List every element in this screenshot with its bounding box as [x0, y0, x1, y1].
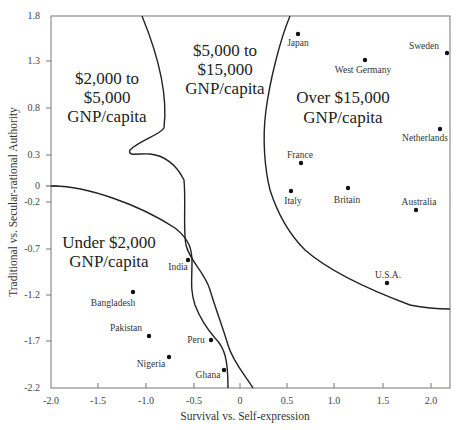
y-tick-label: 1.3: [28, 55, 41, 66]
region-label: $5,000 to: [193, 41, 257, 60]
y-axis-label: Traditional vs. Secular-rational Authori…: [7, 107, 20, 297]
region-label: GNP/capita: [303, 108, 383, 127]
label-ghana: Ghana: [196, 370, 222, 380]
region-label: GNP/capita: [67, 107, 147, 126]
x-tick-label: 0.5: [281, 395, 294, 406]
label-pakistan: Pakistan: [110, 323, 142, 333]
x-tick-label: -2.0: [43, 395, 59, 406]
x-tick-label: 1.0: [328, 395, 341, 406]
label-nigeria: Nigeria: [137, 359, 166, 369]
region-label: GNP/capita: [69, 252, 149, 271]
point-nigeria: [167, 355, 171, 359]
point-peru: [209, 338, 213, 342]
region-label: GNP/capita: [185, 79, 265, 98]
region-label: $2,000 to: [75, 69, 139, 88]
label-west-germany: West Germany: [335, 65, 392, 75]
x-tick-label: 0: [238, 395, 243, 406]
y-tick-label: 0.8: [28, 102, 41, 113]
point-bangladesh: [131, 290, 135, 294]
point-usa: [385, 281, 389, 285]
region-label: Under $2,000: [62, 233, 155, 252]
point-sweden: [445, 51, 449, 55]
y-tick-label: -0.2: [24, 196, 40, 207]
y-tick-label: -2.2: [24, 382, 40, 393]
x-axis-label: Survival vs. Self-expression: [180, 410, 310, 423]
x-tick-label: -0.5: [186, 395, 202, 406]
label-india: India: [168, 262, 188, 272]
y-tick-label: 1.8: [28, 10, 41, 21]
region-label: Over $15,000: [296, 88, 389, 107]
scatter-chart: 1.8 1.3 0.8 0.3 0 -0.2 -0.7 -1.2 -1.7 -2…: [0, 0, 458, 430]
label-peru: Peru: [187, 335, 205, 345]
boundary-line: [264, 16, 450, 309]
label-netherlands: Netherlands: [402, 133, 448, 143]
point-italy: [289, 189, 293, 193]
point-ghana: [222, 368, 226, 372]
y-tick-label: 0.3: [28, 149, 41, 160]
label-usa: U.S.A.: [375, 270, 401, 280]
point-west-germany: [363, 58, 367, 62]
y-axis: 1.8 1.3 0.8 0.3 0 -0.2 -0.7 -1.2 -1.7 -2…: [7, 10, 58, 393]
label-sweden: Sweden: [409, 41, 439, 51]
label-japan: Japan: [287, 38, 309, 48]
point-japan: [296, 32, 300, 36]
y-tick-label: -1.7: [24, 335, 40, 346]
label-italy: Italy: [284, 196, 302, 206]
label-bangladesh: Bangladesh: [91, 298, 136, 308]
y-tick-label: -1.2: [24, 289, 40, 300]
boundary-line: [51, 186, 228, 388]
point-netherlands: [438, 127, 442, 131]
region-label: $15,000: [197, 60, 252, 79]
x-tick-label: -1.0: [138, 395, 154, 406]
point-britain: [346, 186, 350, 190]
y-tick-label: 0: [35, 180, 40, 191]
x-tick-label: 1.5: [377, 395, 390, 406]
region-labels: $2,000 to $5,000 GNP/capita $5,000 to $1…: [62, 41, 389, 271]
x-tick-label: 2.0: [425, 395, 438, 406]
label-australia: Australia: [402, 197, 438, 207]
y-tick-label: -0.7: [24, 243, 40, 254]
label-britain: Britain: [334, 195, 361, 205]
point-france: [299, 161, 303, 165]
region-label: $5,000: [84, 88, 131, 107]
point-pakistan: [147, 334, 151, 338]
point-australia: [414, 208, 418, 212]
x-axis: -2.0 -1.5 -1.0 -0.5 0 0.5 1.0 1.5 2.0 Su…: [43, 383, 437, 423]
label-france: France: [287, 150, 313, 160]
x-tick-label: -1.5: [90, 395, 106, 406]
